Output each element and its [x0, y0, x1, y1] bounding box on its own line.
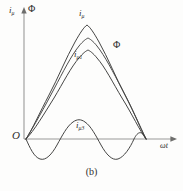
origin-label: O	[12, 130, 20, 141]
x-axis-arrowhead	[170, 136, 177, 141]
label-total-current: iμ	[79, 9, 84, 18]
curve-total-current	[26, 25, 146, 139]
label-fundamental: iμ1	[74, 50, 82, 59]
label-flux: Φ	[113, 40, 120, 50]
figure-caption: (b)	[0, 166, 183, 177]
waveform-plot	[0, 0, 183, 191]
y-axis-flux-label: Φ	[28, 4, 35, 14]
label-third-harmonic: iμ3	[76, 121, 84, 130]
figure-container: iμ Φ iμ Φ iμ1 iμ3 O ωt (b)	[0, 0, 183, 191]
x-axis-label: ωt	[160, 142, 168, 150]
y-axis-arrowhead	[21, 7, 26, 14]
x-axis	[24, 136, 177, 141]
curve-fundamental	[26, 50, 146, 139]
y-axis-current-label: iμ	[9, 6, 14, 15]
curve-flux	[26, 38, 146, 139]
y-axis	[21, 7, 26, 139]
